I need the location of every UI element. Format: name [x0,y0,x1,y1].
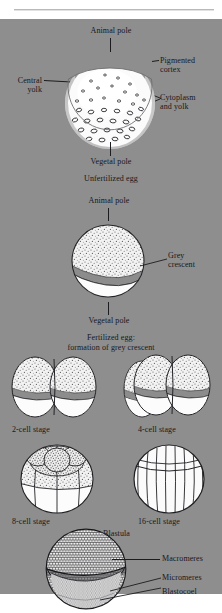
sixteen-cell-stage-caption: 16-cell stage [138,517,180,527]
central-yolk-label-line2: yolk [2,85,42,95]
sixteen-cell-stage-figure [126,439,212,515]
blastocoel-label: Blastocoel [162,587,197,597]
fertilized-egg-caption-line2: formation of grey crescent [21,343,201,353]
unfertilized-egg-caption: Unfertilized egg [41,174,181,184]
two-cell-stage-caption: 2-cell stage [12,425,50,435]
diagram-plate: Animal pole Pigmented cortex Central yol… [0,19,222,594]
fertilized-egg-figure [66,219,150,303]
fertilized-animal-pole-label: Animal pole [59,196,159,206]
macromeres-leader [112,559,160,560]
four-cell-stage-figure [122,353,214,421]
unfertilized-animal-pole-leader [110,38,111,52]
unfertilized-vegetal-pole-label: Vegetal pole [61,157,161,167]
unfertilized-egg-figure [55,51,167,151]
macromeres-label: Macromeres [162,554,203,564]
unfertilized-animal-pole-label: Animal pole [61,26,161,36]
blastocoel-leader [100,584,162,602]
grey-crescent-leader [140,257,168,269]
fertilized-vegetal-pole-leader [108,302,109,315]
eight-cell-stage-figure [14,439,100,515]
fertilized-vegetal-pole-label: Vegetal pole [59,316,159,326]
grey-crescent-label-line2: crescent [168,260,195,270]
unfertilized-vegetal-pole-leader [110,142,111,156]
page-top-rule-shadow [14,10,214,11]
four-cell-stage-caption: 4-cell stage [138,425,176,435]
fertilized-egg-caption-line1: Fertilized egg: [21,333,201,343]
micromeres-label: Micromeres [162,573,202,583]
two-cell-stage-figure [10,356,98,420]
